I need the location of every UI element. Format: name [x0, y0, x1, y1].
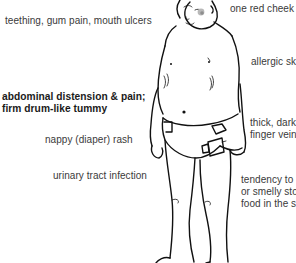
- label-abdominal: abdominal distension & pain; firm drum-l…: [2, 91, 145, 115]
- label-teething: teething, gum pain, mouth ulcers: [5, 15, 152, 27]
- left-leg: [165, 140, 173, 258]
- label-nappy-rash: nappy (diaper) rash: [45, 134, 133, 146]
- label-stools-line3: food in the s: [241, 198, 296, 210]
- label-thick-veins: thick, dark finger vein: [250, 117, 296, 141]
- label-thick-veins-line1: thick, dark: [250, 117, 296, 129]
- right-leg: [200, 160, 211, 262]
- label-stools-line2: or smelly sto: [241, 186, 296, 198]
- label-thick-veins-line2: finger vein: [250, 129, 296, 141]
- eye-left: [184, 6, 192, 8]
- label-red-cheek: one red cheek: [230, 3, 294, 15]
- label-abdominal-line1: abdominal distension & pain;: [2, 91, 145, 103]
- diagram-canvas: teething, gum pain, mouth ulcers abdomin…: [0, 0, 296, 263]
- label-stools: tendency to or smelly sto food in the s: [241, 174, 296, 210]
- red-cheek-mark: [198, 9, 205, 16]
- torso-right: [232, 36, 240, 112]
- label-uti: urinary tract infection: [53, 170, 147, 182]
- label-abdominal-line2: firm drum-like tummy: [2, 103, 145, 115]
- navel: [182, 110, 185, 113]
- torso-left: [158, 46, 165, 114]
- nappy-outline: [163, 114, 238, 126]
- label-stools-line1: tendency to: [241, 174, 296, 186]
- label-allergic-skin: allergic sk: [251, 56, 296, 68]
